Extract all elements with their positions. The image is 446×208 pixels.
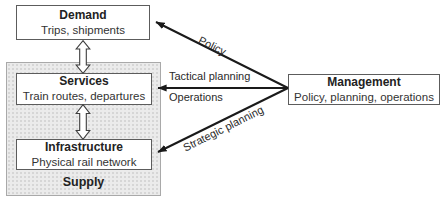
infrastructure-node: Infrastructure Physical rail network [16,139,152,170]
infrastructure-title: Infrastructure [45,140,123,155]
demand-subtitle: Trips, shipments [41,23,125,37]
services-title: Services [59,74,108,89]
supply-group-label: Supply [6,175,161,189]
policy-arrow-label: Policy [196,34,228,59]
services-subtitle: Train routes, departures [23,89,145,103]
strategic-planning-arrow-label: Strategic planning [181,103,266,154]
operations-arrow-label: Operations [169,91,223,104]
diagram-canvas: Demand Trips, shipments Services Train r… [0,0,446,208]
management-subtitle: Policy, planning, operations [294,90,434,104]
management-title: Management [327,75,400,90]
demand-title: Demand [59,8,106,23]
demand-node: Demand Trips, shipments [16,5,150,40]
tactical-planning-arrow-label: Tactical planning [169,70,250,83]
services-node: Services Train routes, departures [16,73,152,105]
management-node: Management Policy, planning, operations [288,74,440,105]
infrastructure-subtitle: Physical rail network [32,155,137,169]
